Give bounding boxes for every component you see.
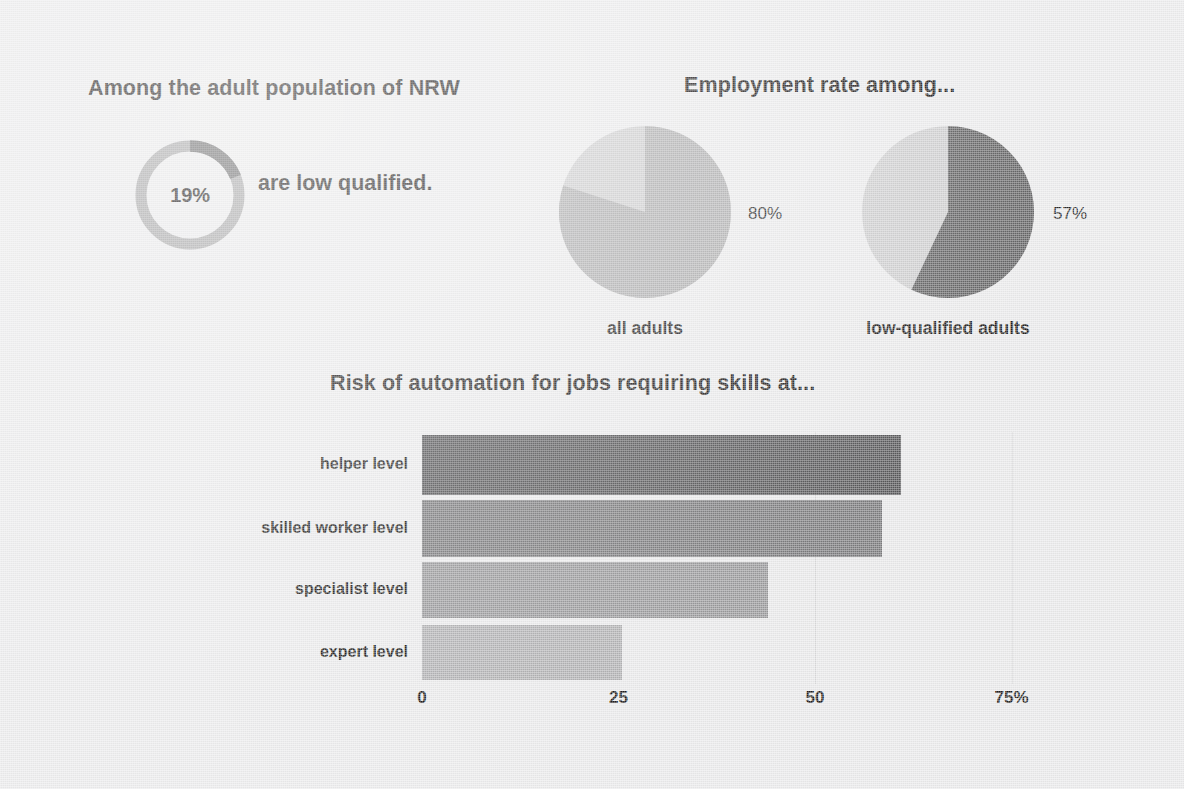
x-axis-tick-25: 25 bbox=[579, 688, 659, 708]
bar-specialist-level bbox=[422, 562, 768, 618]
bar-category-label-specialist-level: specialist level bbox=[295, 580, 408, 598]
bar-category-label-skilled-worker-level: skilled worker level bbox=[261, 519, 408, 537]
bar-category-label-helper-level: helper level bbox=[320, 455, 408, 473]
x-axis-tick-0: 0 bbox=[382, 688, 462, 708]
bar-expert-level bbox=[422, 625, 622, 680]
bar-helper-level bbox=[422, 435, 901, 495]
x-axis-tick-50: 50 bbox=[775, 688, 855, 708]
bar-chart: helper levelskilled worker levelspeciali… bbox=[0, 0, 1184, 789]
infographic-canvas: Among the adult population of NRW 19% ar… bbox=[0, 0, 1184, 789]
bar-skilled-worker-level bbox=[422, 500, 882, 557]
x-axis-tick-75pct: 75% bbox=[972, 688, 1052, 708]
bar-category-label-expert-level: expert level bbox=[320, 643, 408, 661]
bar-chart-gridline bbox=[1012, 432, 1013, 684]
